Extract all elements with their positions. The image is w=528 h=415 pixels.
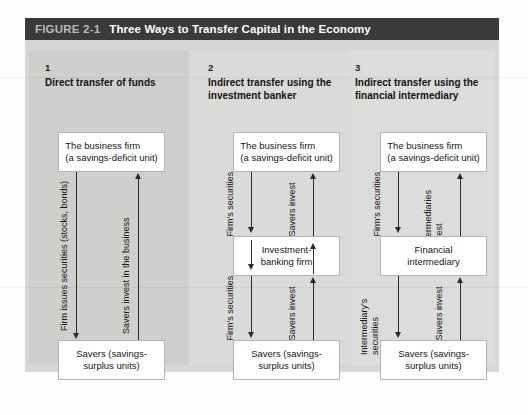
column-3-number: 3 <box>355 62 360 73</box>
column-2-upper-down-label-text: Firm's securities <box>225 172 235 237</box>
column-1: 1 Direct transfer of funds The business … <box>25 40 205 372</box>
scan-artifact-line-top <box>0 77 528 78</box>
column-1-business-firm-line2: (a savings-deficit unit) <box>65 152 157 165</box>
column-2-upper-down-arrow-label: Firm's securities <box>225 167 236 237</box>
column-3-lower-down-arrow-line <box>398 276 399 334</box>
column-3-upper-up-arrowhead <box>457 173 463 179</box>
column-3-upper-down-label-text: Firm's securities <box>372 172 382 237</box>
column-1-up-arrow-label: Savers invest in the business <box>121 217 132 334</box>
column-3-lower-down-arrow-label: Intermediary's securities <box>359 285 380 355</box>
column-2-upper-up-arrowhead <box>310 173 316 179</box>
column-3-lower-up-label-text: Savers invest <box>434 286 444 340</box>
column-2-lower-up-arrowhead <box>310 277 316 283</box>
column-2-number: 2 <box>208 62 213 73</box>
column-2-inbox-down-line <box>251 240 252 266</box>
figure-root: FIGURE 2-1 Three Ways to Transfer Capita… <box>0 0 528 415</box>
column-2-lower-up-label-text: Savers invest <box>287 286 297 340</box>
column-3-heading-line2: financial intermediary <box>355 89 495 102</box>
column-1-up-arrowhead <box>135 173 141 179</box>
column-3-business-firm-line1: The business firm <box>387 140 479 153</box>
column-2-upper-up-arrow-line <box>313 178 314 236</box>
column-3-savers-text: Savers (savings- surplus units) <box>394 348 473 373</box>
column-1-down-arrowhead <box>73 333 79 339</box>
column-2-investment-bank-text: Investment- banking firm <box>257 244 317 269</box>
column-3-lower-up-arrow-label: Savers invest <box>434 271 445 341</box>
column-2-lower-down-arrowhead <box>248 332 254 338</box>
column-2-inbox-up-arrowhead <box>310 243 316 249</box>
column-3-upper-down-arrowhead <box>395 227 401 233</box>
column-2-heading: Indirect transfer using the investment b… <box>208 76 348 102</box>
column-1-business-firm-text: The business firm (a savings-deficit uni… <box>61 140 161 165</box>
column-2: 2 Indirect transfer using the investment… <box>195 40 355 372</box>
column-2-upper-down-arrow-line <box>251 172 252 230</box>
column-3-lower-up-arrow-line <box>460 282 461 340</box>
column-3-financial-intermediary-line2: intermediary <box>407 256 459 269</box>
column-2-business-firm-line2: (a savings-deficit unit) <box>240 152 332 165</box>
column-1-savers-line2: surplus units) <box>76 360 147 373</box>
column-2-business-firm-line1: The business firm <box>240 140 332 153</box>
figure-number-label: FIGURE 2-1 <box>35 23 100 35</box>
column-1-savers-box: Savers (savings- surplus units) <box>58 340 165 380</box>
column-3: 3 Indirect transfer using the financial … <box>342 40 502 372</box>
figure-panel: FIGURE 2-1 Three Ways to Transfer Capita… <box>25 18 499 372</box>
column-2-inbox-up-line <box>313 248 314 274</box>
column-1-number: 1 <box>45 62 50 73</box>
column-1-savers-text: Savers (savings- surplus units) <box>72 348 151 373</box>
column-2-savers-line1: Savers (savings- <box>251 348 322 361</box>
column-2-investment-bank-line1: Investment- <box>261 244 313 257</box>
column-2-inbox-down-arrowhead <box>248 264 254 270</box>
column-2-savers-text: Savers (savings- surplus units) <box>247 348 326 373</box>
column-3-lower-down-label-text: Intermediary's securities <box>359 299 380 355</box>
column-1-business-firm-box: The business firm (a savings-deficit uni… <box>58 132 165 172</box>
column-3-lower-up-arrowhead <box>457 277 463 283</box>
column-1-savers-line1: Savers (savings- <box>76 348 147 361</box>
figure-title: Three Ways to Transfer Capital in the Ec… <box>109 23 371 35</box>
column-2-savers-box: Savers (savings- surplus units) <box>233 340 340 380</box>
column-3-business-firm-text: The business firm (a savings-deficit uni… <box>383 140 483 165</box>
column-2-upper-down-arrowhead <box>248 227 254 233</box>
column-2-lower-down-arrow-label: Firm's securities <box>225 271 236 341</box>
scan-artifact-line-mid <box>0 287 528 288</box>
column-2-heading-line2: investment banker <box>208 89 348 102</box>
column-3-heading: Indirect transfer using the financial in… <box>355 76 495 102</box>
column-3-upper-up-arrow-line <box>460 178 461 236</box>
column-3-upper-down-arrow-line <box>398 172 399 230</box>
column-3-financial-intermediary-line1: Financial <box>407 244 459 257</box>
column-1-down-arrow-label: Firm issues securities (stocks, bonds) <box>59 181 70 331</box>
column-1-down-arrow-line <box>76 172 77 336</box>
column-2-lower-down-label-text: Firm's securities <box>225 276 235 341</box>
column-2-savers-line2: surplus units) <box>251 360 322 373</box>
column-2-lower-up-arrow-line <box>313 282 314 340</box>
column-2-lower-down-arrow-line <box>251 276 252 334</box>
column-3-financial-intermediary-text: Financial intermediary <box>403 244 463 269</box>
column-3-savers-line1: Savers (savings- <box>398 348 469 361</box>
column-3-savers-line2: surplus units) <box>398 360 469 373</box>
column-3-business-firm-box: The business firm (a savings-deficit uni… <box>380 132 487 172</box>
column-2-investment-bank-line2: banking firm <box>261 256 313 269</box>
column-3-upper-down-arrow-label: Firm's securities <box>372 167 383 237</box>
column-2-lower-up-arrow-label: Savers invest <box>287 271 298 341</box>
column-2-business-firm-text: The business firm (a savings-deficit uni… <box>236 140 336 165</box>
figure-title-bar: FIGURE 2-1 Three Ways to Transfer Capita… <box>25 18 499 40</box>
column-2-upper-up-arrow-label: Savers invest <box>287 167 298 237</box>
column-3-business-firm-line2: (a savings-deficit unit) <box>387 152 479 165</box>
column-3-lower-down-arrowhead <box>395 332 401 338</box>
column-1-business-firm-line1: The business firm <box>65 140 157 153</box>
column-1-up-arrow-line <box>138 178 139 340</box>
diagram-area: 1 Direct transfer of funds The business … <box>25 40 499 372</box>
column-3-savers-box: Savers (savings- surplus units) <box>380 340 487 380</box>
column-2-upper-up-label-text: Savers invest <box>287 182 297 236</box>
